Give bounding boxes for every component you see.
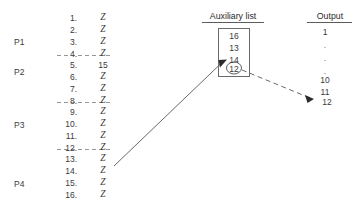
input-row-number: 12. <box>57 143 77 153</box>
partition-label-p4: P4 <box>14 179 25 189</box>
input-row-number: 6. <box>57 72 77 82</box>
partition-label-p2: P2 <box>14 67 25 77</box>
input-row-number: 14. <box>57 166 77 176</box>
input-row-number: 1. <box>57 13 77 23</box>
output-item: 11 <box>315 87 335 97</box>
output-item: 1 <box>315 27 335 37</box>
input-row-value: Z <box>92 95 114 105</box>
auxiliary-item-selected: 12 <box>222 64 246 74</box>
auxiliary-list-title: Auxiliary list <box>200 11 266 21</box>
input-row-number: 16. <box>57 190 77 200</box>
input-row-number: 8. <box>57 96 77 106</box>
output-item-current: 12 <box>317 97 337 107</box>
partition-label-p3: P3 <box>14 120 25 130</box>
partition-label-p1: P1 <box>14 37 25 47</box>
output-item-ellipsis: . <box>315 40 335 50</box>
input-row-value: Z <box>92 83 114 93</box>
input-row-value: Z <box>92 142 114 152</box>
input-row-value: Z <box>92 24 114 34</box>
input-row-number: 4. <box>57 49 77 59</box>
input-row-value: Z <box>92 12 114 22</box>
output-item-ellipsis: . <box>315 53 335 63</box>
input-row-value: Z <box>92 177 114 187</box>
input-row-value: Z <box>92 165 114 175</box>
output-title: Output <box>306 11 354 21</box>
input-row-number: 9. <box>57 107 77 117</box>
input-row-value: Z <box>92 130 114 140</box>
input-row-number: 13. <box>57 154 77 164</box>
input-row-value: Z <box>92 71 114 81</box>
input-row-value: Z <box>92 48 114 58</box>
input-row-number: 7. <box>57 84 77 94</box>
input-row-number: 11. <box>57 131 77 141</box>
input-row-number: 2. <box>57 25 77 35</box>
auxiliary-to-output-connector <box>242 70 310 98</box>
input-to-auxiliary-connector <box>114 63 222 167</box>
auxiliary-item: 16 <box>222 31 246 41</box>
input-row-number: 15. <box>57 178 77 188</box>
input-row-value: Z <box>92 153 114 163</box>
diagram-canvas: P1 P2 P3 P4 1. 2. 3. 4. 5. 6. 7. 8. 9. 1… <box>0 0 359 207</box>
output-item: 10 <box>315 75 335 85</box>
input-row-number: 3. <box>57 37 77 47</box>
input-row-number: 5. <box>57 60 77 70</box>
input-row-value: Z <box>92 189 114 199</box>
input-row-value: Z <box>92 36 114 46</box>
input-row-value: Z <box>92 106 114 116</box>
diagram-vector-layer <box>0 0 359 207</box>
input-row-number: 10. <box>57 119 77 129</box>
input-row-value: Z <box>92 118 114 128</box>
input-row-value: 15 <box>92 60 114 70</box>
auxiliary-item: 13 <box>222 43 246 53</box>
auxiliary-to-output-arrowhead <box>305 95 314 103</box>
